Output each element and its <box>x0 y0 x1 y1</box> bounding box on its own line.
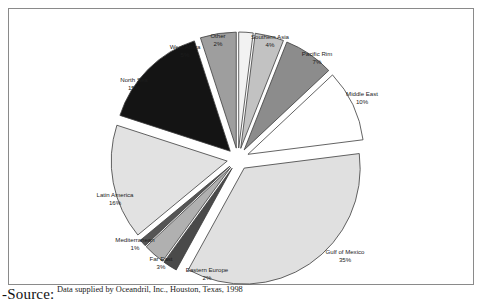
pie-slice-label-value: 2% <box>214 40 223 47</box>
pie-slice-label-name: Other <box>210 32 225 39</box>
pie-chart: Other2%Southern Asia4%Pacific Rim7%Middl… <box>9 9 475 286</box>
pie-slice-label-value: 3% <box>157 263 166 270</box>
page-root: Other2%Southern Asia4%Pacific Rim7%Middl… <box>0 0 481 306</box>
pie-slice-label: Gulf of Mexico35% <box>326 248 366 263</box>
source-text: Data supplied by Oceandril, Inc., Housto… <box>57 285 243 294</box>
pie-slices-group <box>111 32 363 284</box>
pie-slice-label-name: Southern Asia <box>251 33 290 40</box>
pie-slice-label-value: 10% <box>356 98 369 105</box>
pie-slice-label-value: 5% <box>181 51 190 58</box>
pie-slice-label-name: Latin America <box>97 191 135 198</box>
pie-slice-label-name: Gulf of Mexico <box>326 248 366 255</box>
pie-slice-label-name: West Africa <box>170 43 201 50</box>
pie-slice[interactable] <box>188 154 360 285</box>
source-word: -Source: <box>2 286 54 303</box>
pie-slice-label-value: 4% <box>266 41 275 48</box>
pie-slice-label-name: Middle East <box>346 90 378 97</box>
caption: -Source: Data supplied by Oceandril, Inc… <box>0 286 481 306</box>
pie-slice-label-value: 15% <box>128 84 141 91</box>
pie-slice-label-value: 16% <box>109 199 122 206</box>
chart-frame: Other2%Southern Asia4%Pacific Rim7%Middl… <box>8 8 474 285</box>
pie-slice-label-value: 1% <box>131 244 140 251</box>
pie-slice-label-value: 2% <box>203 274 212 281</box>
pie-slice-label-value: 35% <box>339 256 352 263</box>
pie-slice-label-name: Eastern Europe <box>186 266 229 273</box>
pie-slice-label-name: Far East <box>149 255 172 262</box>
pie-slice-label-name: North Sea <box>120 76 148 83</box>
pie-slice-label-name: Mediterranean <box>115 236 154 243</box>
pie-slice-label-value: 7% <box>313 58 322 65</box>
pie-slice-label-name: Pacific Rim <box>302 50 332 57</box>
